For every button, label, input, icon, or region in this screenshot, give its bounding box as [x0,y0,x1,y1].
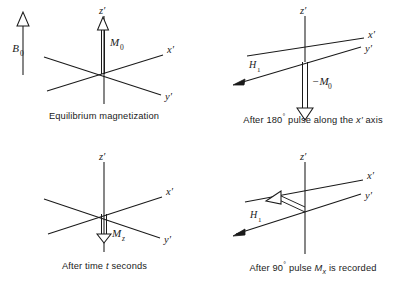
z-axis-label: z′ [98,151,106,162]
z-axis-label: z′ [98,5,106,16]
y-axis-label: y′ [364,43,373,54]
h1-arrowhead [233,229,245,236]
y-axis-label: y′ [163,234,172,245]
caption-after-time-t-post: seconds [109,261,147,271]
z-axis-label: z′ [299,5,307,16]
caption-after-time-t-pre: After time [62,261,106,271]
m-transverse-shaft-right [279,195,305,207]
caption-after-90-var: M [315,263,323,273]
m0-arrowhead [98,17,109,30]
b0-arrowhead [17,12,29,26]
x-axis-label: x′ [366,170,375,181]
h1-label: H [248,59,257,70]
caption-after-90-post: is recorded [326,263,376,273]
caption-after-90-pre: After 90 [249,263,283,273]
caption-after-180-mid: pulse along the [285,115,356,125]
h1-arrowhead [233,79,245,85]
x-axis-label: x′ [166,44,175,55]
caption-after-180-axis: x′ [356,115,363,125]
caption-after-90: After 90° pulse Mx is recorded [209,261,417,275]
figure-canvas: B 0 z′ x′ y′ M 0 Equilibrium magnetizati… [0,0,417,283]
mz-arrowhead [97,234,111,243]
m0-neg-label: −M [312,75,329,87]
m0-neg-label-sub: 0 [328,82,332,91]
x-axis-label: x′ [367,29,376,40]
y-axis-label: y′ [164,91,173,102]
caption-after-time-t: After time t seconds [0,261,209,271]
x-axis-label: x′ [165,186,174,197]
m0-label-sub: 0 [120,43,124,52]
caption-after-180-post: axis [363,115,383,125]
caption-after-180: After 180° pulse along the x′ axis [209,113,417,125]
m0-label: M [109,36,120,48]
caption-after-90-mid: pulse [286,263,314,273]
h1-label-sub: 1 [258,216,262,224]
h1-label: H [249,209,258,220]
h1-label-sub: 1 [257,66,261,74]
caption-after-180-pre: After 180 [243,115,282,125]
mz-label: M [111,227,122,239]
caption-equilibrium: Equilibrium magnetization [0,111,208,121]
x-axis [48,197,162,234]
b0-label: B [12,42,19,54]
b0-label-sub: 0 [20,49,24,58]
mz-label-sub: z [121,234,125,243]
z-axis-label: z′ [299,151,307,162]
y-axis-label: y′ [364,190,373,201]
y-axis [44,57,161,95]
